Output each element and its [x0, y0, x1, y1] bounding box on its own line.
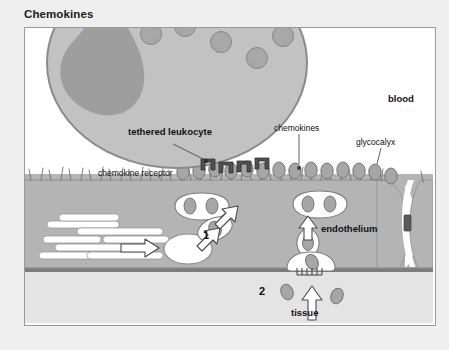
- chemokine-transcytosis-diagram: [25, 28, 433, 323]
- receptor-marker-dot: [204, 159, 208, 163]
- figure-container: Chemokines: [0, 0, 449, 350]
- chemokine-cargo: [302, 196, 314, 212]
- tissue-layer: [25, 271, 433, 323]
- label-blood: blood: [388, 94, 414, 104]
- label-chemokine-receptor: chemokine receptor: [98, 169, 173, 178]
- chemokine-molecule: [337, 162, 349, 178]
- granule: [273, 28, 294, 47]
- basal-lamina: [25, 268, 433, 272]
- chemokine-marker-dot: [297, 166, 301, 170]
- granule: [141, 28, 162, 45]
- junctional-complex: [404, 215, 411, 231]
- transport-vesicle: [293, 191, 347, 218]
- label-tissue: tissue: [291, 308, 318, 318]
- basal-fusion-vesicle: [287, 252, 335, 275]
- chemokine-molecule: [369, 164, 381, 180]
- label-tethered-leukocyte: tethered leukocyte: [128, 127, 212, 137]
- chemokine-molecule: [353, 163, 365, 179]
- chemokine-cargo: [184, 198, 196, 214]
- chemokine-molecule: [321, 163, 333, 179]
- transport-vesicle: [175, 193, 229, 220]
- label-chemokines: chemokines: [274, 124, 319, 133]
- label-endothelium: endothelium: [321, 224, 377, 234]
- granule: [247, 48, 268, 69]
- chemokine-molecule: [305, 162, 317, 178]
- chemokine-molecule: [385, 168, 397, 184]
- basal-lamina-highlight: [25, 267, 433, 268]
- label-step-2: 2: [259, 286, 265, 297]
- diagram-panel: tethered leukocyte chemokine receptor ch…: [24, 27, 436, 326]
- figure-title: Chemokines: [24, 8, 93, 20]
- label-glycocalyx: glycocalyx: [356, 138, 395, 147]
- chemokine-molecule: [289, 163, 301, 179]
- chemokine-molecule: [273, 162, 285, 178]
- granule: [211, 32, 232, 53]
- chemokine-cargo: [324, 196, 336, 212]
- label-step-1: 1: [203, 230, 209, 241]
- chemokine-cargo: [206, 198, 218, 214]
